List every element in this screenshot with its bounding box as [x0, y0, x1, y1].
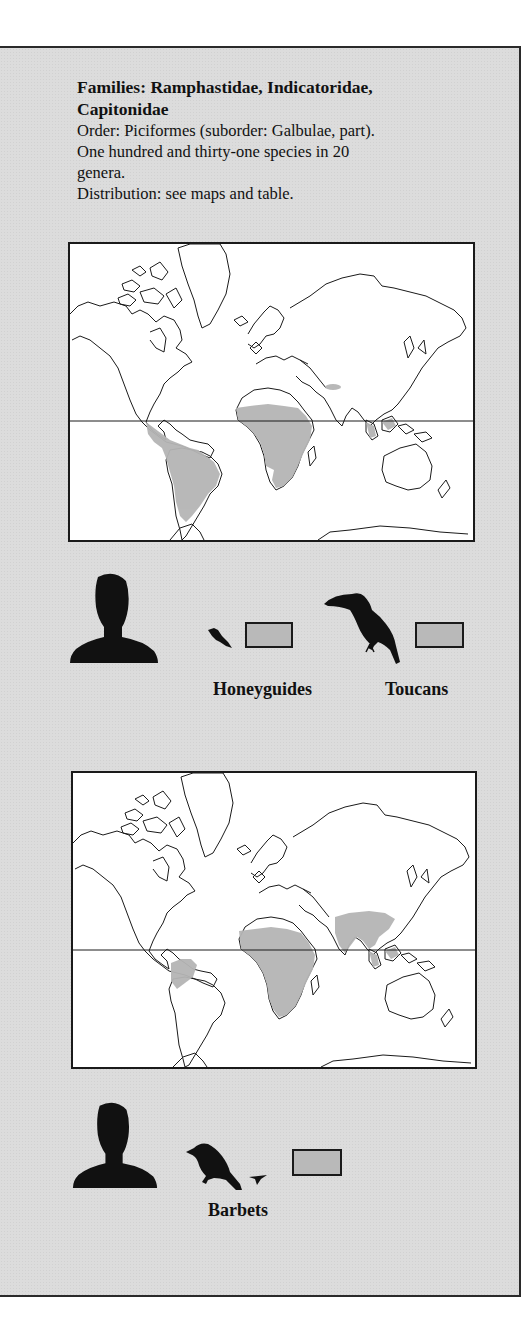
order-text: Order: Piciformes (suborder: Galbulae, p… — [77, 120, 517, 141]
species-text-1: One hundred and thirty-one species in 20 — [77, 141, 517, 162]
title-line-2: Capitonidae — [77, 98, 517, 120]
human-silhouette-icon — [68, 573, 160, 665]
toucans-label: Toucans — [385, 679, 448, 700]
species-text-2: genera. — [77, 162, 517, 183]
barbets-label: Barbets — [208, 1200, 268, 1221]
world-map-1 — [70, 244, 473, 540]
barbet-bird-icon — [186, 1140, 246, 1192]
small-bird-icon — [249, 1175, 269, 1187]
honeyguides-range-swatch — [245, 622, 293, 648]
human-silhouette-icon — [70, 1102, 160, 1190]
title-line-1: Families: Ramphastidae, Indicatoridae, — [77, 76, 517, 98]
honeyguide-bird-icon — [206, 626, 234, 650]
toucan-bird-icon — [324, 590, 406, 666]
toucans-range-swatch — [415, 622, 464, 648]
distribution-text: Distribution: see maps and table. — [77, 183, 517, 204]
barbets-range-swatch — [292, 1149, 342, 1176]
world-map-2 — [73, 773, 475, 1067]
family-header: Families: Ramphastidae, Indicatoridae, C… — [77, 76, 517, 204]
honeyguides-label: Honeyguides — [213, 679, 312, 700]
barbets-map — [71, 771, 477, 1069]
honeyguides-toucans-map — [68, 242, 475, 542]
